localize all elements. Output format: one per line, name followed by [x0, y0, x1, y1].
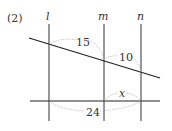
segment-label-10: 10: [119, 51, 133, 64]
segment-label-x: x: [119, 87, 126, 100]
label-line-n: n: [137, 10, 144, 23]
label-line-l: l: [46, 10, 50, 23]
problem-number: (2): [7, 12, 23, 25]
label-line-m: m: [98, 10, 108, 23]
segment-label-15: 15: [76, 36, 90, 49]
segment-label-24: 24: [86, 106, 100, 119]
parallel-lines-diagram: (2) l m n 15 10 x 24: [0, 0, 172, 131]
